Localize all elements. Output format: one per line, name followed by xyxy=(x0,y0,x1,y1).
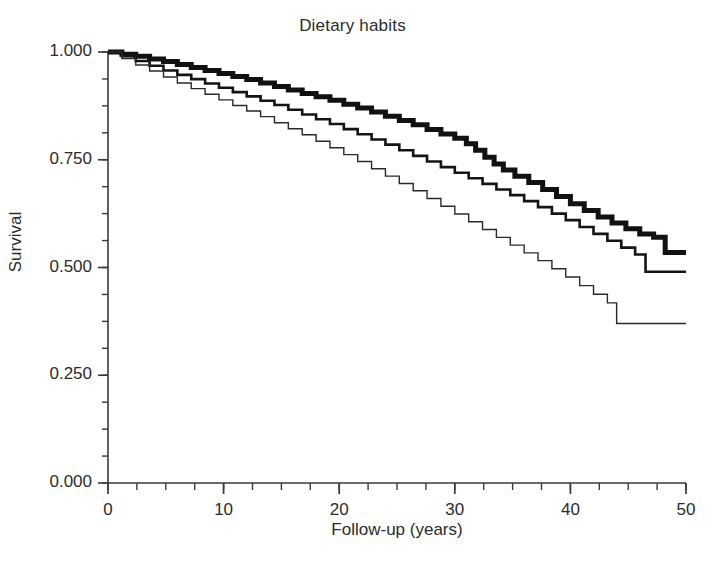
survival-chart-figure: Dietary habits Survival Follow-up (years… xyxy=(0,0,705,562)
survival-curve-medium-curve xyxy=(108,52,686,272)
plot-area xyxy=(0,0,705,562)
y-tick-label: 0.750 xyxy=(22,149,92,169)
x-tick-label: 10 xyxy=(194,500,254,520)
y-tick-label: 0.000 xyxy=(22,472,92,492)
y-tick-label: 1.000 xyxy=(22,41,92,61)
y-tick-label: 0.500 xyxy=(22,257,92,277)
y-axis-label: Survival xyxy=(6,192,26,292)
chart-title: Dietary habits xyxy=(0,16,705,36)
x-tick-label: 50 xyxy=(656,500,705,520)
survival-curve-thick-curve xyxy=(108,52,686,252)
x-tick-label: 30 xyxy=(425,500,485,520)
x-tick-label: 20 xyxy=(309,500,369,520)
x-tick-label: 0 xyxy=(78,500,138,520)
x-tick-label: 40 xyxy=(540,500,600,520)
x-axis-label: Follow-up (years) xyxy=(108,520,686,540)
y-tick-label: 0.250 xyxy=(22,364,92,384)
survival-curve-thin-curve xyxy=(108,52,686,324)
